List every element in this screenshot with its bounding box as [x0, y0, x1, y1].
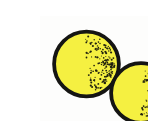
back-sphere — [54, 32, 119, 97]
two-yellow-spheres-illustration — [40, 16, 148, 121]
scene-svg — [40, 16, 148, 121]
